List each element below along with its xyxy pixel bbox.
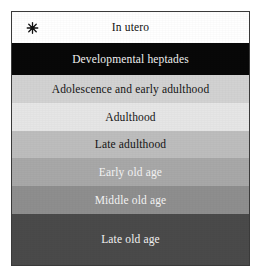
band-row: Adulthood [12,103,249,131]
band-label: Late old age [97,233,164,246]
band-label: Middle old age [91,194,171,207]
band-label: Adolescence and early adulthood [48,83,214,96]
band-label: Late adulthood [91,138,170,151]
life-stages-band-diagram: In uteroDevelopmental heptadesAdolescenc… [11,11,250,266]
band-label: Early old age [95,166,166,179]
band-row: Early old age [12,158,249,186]
band-row: Adolescence and early adulthood [12,75,249,103]
asterisk-icon [26,21,39,34]
band-row: Late old age [12,214,249,265]
band-row: Developmental heptades [12,43,249,75]
band-list: In uteroDevelopmental heptadesAdolescenc… [12,12,249,265]
band-row: Middle old age [12,186,249,214]
band-label: Adulthood [101,111,160,124]
band-row: In utero [12,12,249,43]
band-label: Developmental heptades [68,53,193,66]
band-label: In utero [108,21,153,34]
band-row: Late adulthood [12,131,249,158]
